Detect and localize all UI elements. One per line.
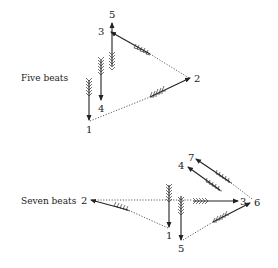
seven-beat-5-label: 5 bbox=[178, 243, 184, 254]
five-beat-1-arrow bbox=[86, 78, 92, 120]
seven-beat-4-label: 4 bbox=[178, 160, 184, 171]
seven-beats-diagram: Seven beats bbox=[21, 152, 260, 254]
five-beat-2-label: 2 bbox=[194, 73, 200, 84]
five-beat-3-label: 3 bbox=[98, 26, 104, 37]
five-beat-5-label: 5 bbox=[109, 9, 115, 20]
seven-beats-title: Seven beats bbox=[21, 196, 77, 206]
five-beats-diagram: Five beats 5 3 2 4 bbox=[21, 9, 200, 135]
seven-beat-5-arrow bbox=[178, 196, 184, 240]
seven-beat-1-arrow bbox=[166, 184, 172, 227]
conducting-patterns-diagram: Five beats 5 3 2 4 bbox=[0, 0, 278, 268]
five-beat-4-arrow bbox=[98, 57, 104, 100]
seven-beat-3-label: 3 bbox=[240, 196, 246, 207]
five-beat-2-arrow bbox=[90, 78, 190, 121]
seven-beat-1-label: 1 bbox=[166, 230, 172, 241]
five-beat-4-label: 4 bbox=[98, 103, 104, 114]
seven-beat-2-label: 2 bbox=[81, 195, 87, 206]
five-beat-1-label: 1 bbox=[86, 124, 92, 135]
five-beat-3-arrow bbox=[111, 32, 189, 78]
five-beats-title: Five beats bbox=[21, 73, 68, 83]
seven-beat-6-arrow bbox=[183, 203, 250, 240]
seven-beat-7-label: 7 bbox=[188, 152, 194, 163]
five-beat-5-arrow bbox=[109, 23, 115, 70]
seven-beat-2-arrow bbox=[91, 200, 168, 228]
seven-beat-3-arrow bbox=[193, 198, 238, 204]
seven-beat-6-label: 6 bbox=[254, 197, 260, 208]
